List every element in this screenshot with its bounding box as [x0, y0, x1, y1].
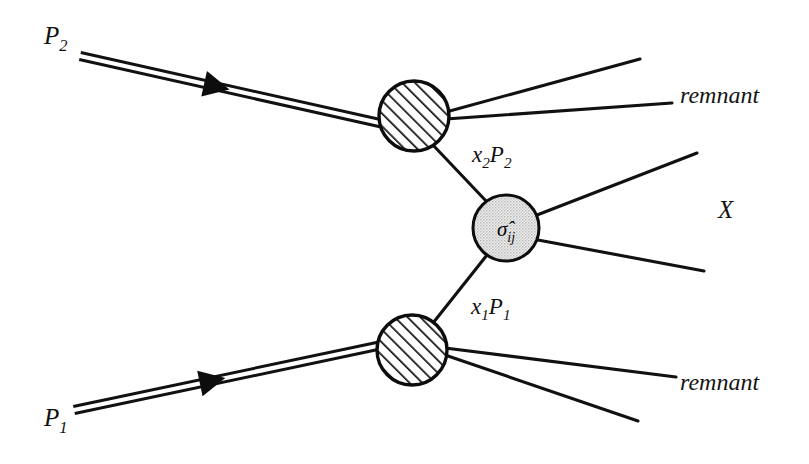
bottom-proton-blob [377, 315, 447, 385]
label-x2p2-x: x [471, 142, 483, 167]
label-p1-sub: 1 [59, 418, 67, 437]
label-x1p1-p: P [488, 294, 503, 319]
label-p1-base: P [43, 404, 59, 431]
label-sigma-sub: ij [507, 230, 515, 245]
label-p2-sub: 2 [59, 36, 67, 55]
top-proton-blob [379, 81, 449, 151]
label-x1p1-psub: 1 [503, 306, 511, 323]
label-p2-base: P [43, 22, 59, 49]
label-remnant-bottom: remnant [680, 369, 760, 395]
feynman-diagram-canvas: P2 P1 x2P2 x1P1 σ̂ij remnant X remnant [0, 0, 809, 464]
label-x2p2-p: P [489, 142, 504, 167]
label-final-state-x: X [717, 196, 735, 223]
label-remnant-top: remnant [680, 82, 760, 108]
label-x1p1-x: x [470, 294, 482, 319]
label-x1p1-xsub: 1 [481, 306, 489, 323]
parton-model-diagram: P2 P1 x2P2 x1P1 σ̂ij remnant X remnant [0, 0, 809, 464]
label-x2p2-psub: 2 [504, 154, 512, 171]
